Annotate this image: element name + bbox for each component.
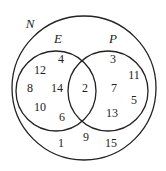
universal-set-label: N bbox=[25, 16, 36, 31]
element-6: 6 bbox=[59, 110, 65, 124]
set-p-label: P bbox=[108, 31, 117, 46]
element-1: 1 bbox=[58, 136, 64, 150]
element-9: 9 bbox=[83, 130, 89, 144]
element-10: 10 bbox=[34, 100, 46, 114]
element-12: 12 bbox=[34, 63, 46, 77]
venn-diagram: N E P 12 4 8 14 10 6 2 3 11 7 5 13 1 9 1… bbox=[0, 0, 166, 171]
element-11: 11 bbox=[128, 68, 140, 82]
element-3: 3 bbox=[110, 52, 116, 66]
element-13: 13 bbox=[106, 106, 118, 120]
element-4: 4 bbox=[58, 52, 64, 66]
set-e-label: E bbox=[53, 31, 62, 46]
element-2: 2 bbox=[82, 81, 88, 95]
element-15: 15 bbox=[105, 136, 117, 150]
element-5: 5 bbox=[131, 93, 137, 107]
element-7: 7 bbox=[111, 81, 117, 95]
element-8: 8 bbox=[27, 81, 33, 95]
element-14: 14 bbox=[51, 81, 63, 95]
